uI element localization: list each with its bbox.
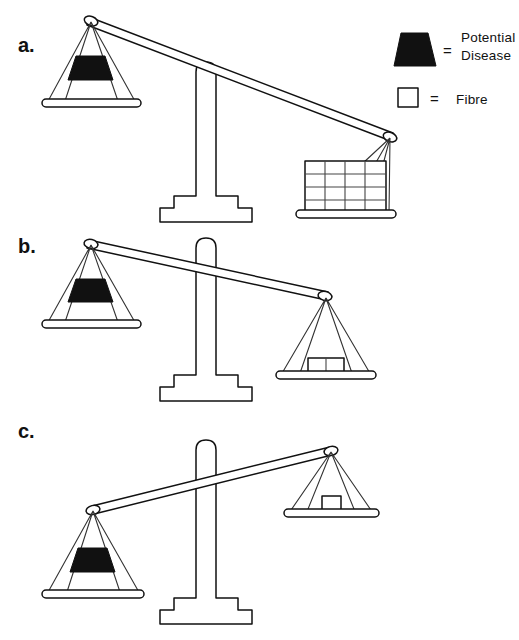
panel-c-label: c. bbox=[18, 420, 35, 442]
legend-equals-sign-2: = bbox=[430, 90, 439, 107]
potential-disease-icon bbox=[394, 33, 436, 66]
panel-a-stand bbox=[160, 62, 252, 222]
legend-equals-sign-1: = bbox=[443, 42, 452, 59]
panel-a-right-pan-fibre-stack bbox=[305, 161, 386, 213]
panel-c-stand bbox=[160, 440, 252, 624]
panel-c: c. bbox=[18, 420, 379, 624]
legend-label-potential-disease-line2: Disease bbox=[461, 48, 511, 63]
fibre-icon bbox=[398, 88, 418, 107]
panel-a: a. bbox=[18, 14, 398, 222]
panel-a-right-pan bbox=[296, 138, 396, 218]
panel-b-beam-left-knob bbox=[83, 238, 99, 250]
panel-a-stand-shape bbox=[160, 62, 252, 222]
panel-b-right-pan bbox=[276, 298, 376, 379]
panel-b-left-pan-plate bbox=[42, 320, 141, 328]
legend-item-potential-disease: = Potential Disease bbox=[394, 30, 515, 66]
panel-c-beam-left-knob bbox=[85, 504, 101, 516]
panel-b-label: b. bbox=[18, 235, 36, 257]
panel-c-left-pan-disease-block bbox=[70, 548, 115, 572]
panel-a-left-pan-disease-block bbox=[68, 56, 113, 80]
panel-a-left-pan-plate bbox=[42, 99, 141, 107]
legend-label-potential-disease-line1: Potential bbox=[461, 30, 515, 45]
panel-c-left-pan-plate bbox=[42, 590, 144, 598]
legend: = Potential Disease = Fibre bbox=[394, 30, 515, 107]
panel-a-beam bbox=[83, 14, 398, 143]
panel-a-label: a. bbox=[18, 34, 35, 56]
panel-c-right-pan-plate bbox=[284, 509, 379, 517]
legend-item-fibre: = Fibre bbox=[398, 88, 488, 107]
panel-b: b. bbox=[18, 235, 376, 401]
legend-label-fibre: Fibre bbox=[456, 92, 488, 107]
panel-a-right-pan-plate bbox=[296, 210, 396, 218]
panel-c-beam-right-knob bbox=[323, 445, 339, 457]
panel-a-beam-bar bbox=[87, 17, 393, 141]
panel-b-right-pan-plate bbox=[276, 371, 376, 379]
balance-scale-figure: = Potential Disease = Fibre a. bbox=[0, 0, 519, 640]
panel-c-left-pan bbox=[42, 511, 144, 598]
panel-c-stand-shape bbox=[160, 440, 252, 624]
panel-b-left-pan bbox=[42, 245, 141, 328]
panel-b-left-pan-disease-block bbox=[68, 279, 113, 302]
